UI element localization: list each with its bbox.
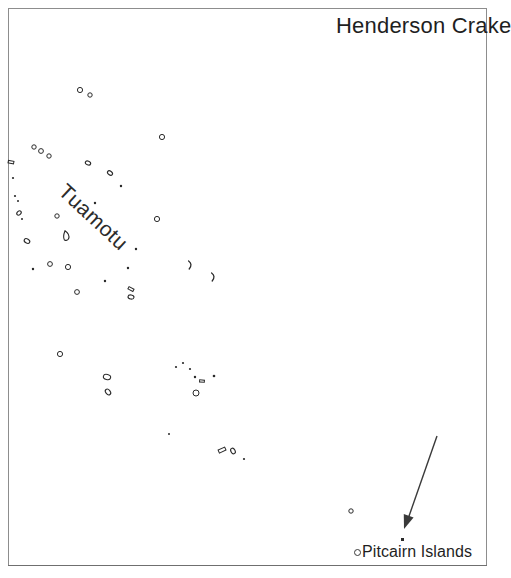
island-mark	[32, 268, 34, 270]
island-mark	[48, 262, 53, 267]
island-mark	[65, 264, 70, 269]
island-mark	[200, 380, 205, 382]
island-mark	[230, 447, 237, 454]
island-mark	[16, 210, 22, 216]
island-mark	[175, 366, 177, 368]
island-mark	[120, 185, 122, 187]
island-mark	[57, 351, 62, 356]
island-mark	[103, 374, 111, 381]
locality-label-pitcairn-islands: Pitcairn Islands	[362, 543, 472, 561]
island-mark	[85, 160, 92, 166]
island-mark	[104, 388, 112, 396]
island-mark	[12, 177, 14, 179]
island-mark	[168, 433, 170, 435]
island-mark	[77, 87, 82, 92]
island-mark	[243, 458, 245, 460]
island-mark	[23, 238, 30, 245]
island-mark	[159, 134, 164, 139]
island-mark	[8, 160, 14, 164]
island-mark	[182, 362, 184, 364]
island-mark	[135, 248, 137, 250]
island-mark	[88, 93, 92, 97]
island-mark	[349, 509, 353, 513]
island-mark	[75, 290, 80, 295]
page-title: Henderson Crake	[336, 13, 511, 39]
island-layer	[8, 87, 353, 513]
island-mark	[32, 145, 36, 149]
island-mark	[127, 267, 129, 269]
island-mark	[107, 170, 114, 176]
island-mark	[128, 294, 135, 299]
island-mark	[14, 195, 16, 197]
island-mark	[194, 376, 196, 378]
island-mark	[47, 154, 51, 158]
island-mark	[64, 231, 69, 241]
pitcairn-island-dot	[401, 538, 404, 541]
island-mark	[193, 390, 199, 396]
island-mark	[154, 216, 159, 221]
island-mark	[213, 375, 216, 378]
island-mark	[189, 261, 191, 269]
island-mark	[218, 447, 226, 453]
island-mark	[104, 280, 106, 282]
island-mark	[21, 218, 23, 220]
island-mark	[55, 214, 59, 218]
island-mark	[212, 273, 214, 281]
island-mark	[39, 149, 44, 154]
island-mark	[17, 200, 19, 202]
pitcairn-pointer-arrow	[404, 436, 437, 529]
island-mark	[189, 368, 191, 370]
island-mark	[128, 287, 134, 292]
pitcairn-legend-circle-icon	[354, 549, 361, 556]
